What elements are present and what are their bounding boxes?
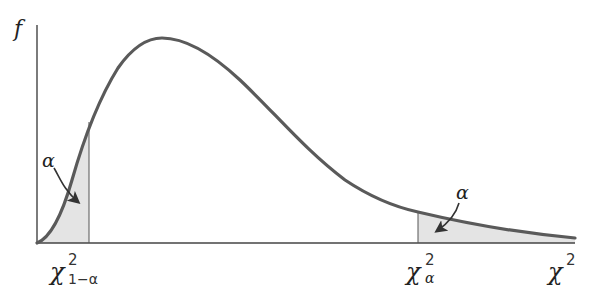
x-axis-label-sup: 2	[566, 251, 576, 269]
right-alpha-label: α	[456, 181, 469, 203]
y-axis-label: f	[12, 16, 26, 41]
x-axis-label: χ	[546, 258, 564, 286]
right-critical-sub: α	[425, 270, 435, 286]
left-critical-sub: 1−α	[68, 271, 98, 287]
chi-square-density-curve	[37, 38, 575, 243]
right-critical-sup: 2	[425, 251, 435, 269]
left-tail-shaded-region	[37, 122, 89, 243]
chi-square-diagram: f α α χ 2 1−α χ 2 α χ 2	[0, 0, 601, 295]
left-critical-chi: χ	[48, 258, 66, 286]
right-critical-chi: χ	[404, 258, 422, 286]
left-alpha-label: α	[42, 149, 55, 171]
left-critical-sup: 2	[68, 251, 78, 269]
